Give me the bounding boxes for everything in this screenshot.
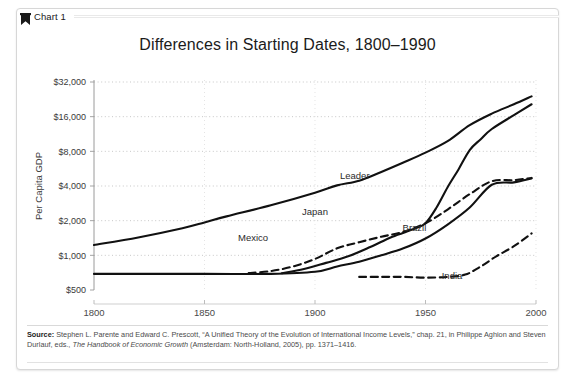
y-tick-label: $16,000: [53, 112, 86, 122]
source-divider: [27, 325, 548, 326]
source-prefix: Source:: [27, 330, 54, 339]
series-label-mexico: Mexico: [238, 232, 268, 243]
series-label-japan: Japan: [302, 206, 328, 217]
source-note: Source: Stephen L. Parente and Edward C.…: [27, 330, 548, 351]
y-tick-label: $1,000: [58, 251, 86, 261]
chart-title: Differences in Starting Dates, 1800–1990: [0, 36, 575, 54]
series-label-leader: Leader: [340, 170, 370, 181]
y-tick-label: $2,000: [58, 216, 86, 226]
source-text-b: (Amsterdam: North-Holland, 2005), pp. 13…: [188, 340, 356, 349]
card-bottom-rule: [27, 362, 548, 363]
series-label-brazil: Brazil: [403, 222, 427, 233]
plot-area: $500$1,000$2,000$4,000$8,000$16,000$32,0…: [28, 68, 548, 318]
y-axis-title: Per Capita GDP: [33, 152, 44, 220]
series-label-india: India: [442, 270, 463, 281]
y-tick-label: $4,000: [58, 181, 86, 191]
x-tick-label: 1950: [415, 307, 436, 318]
x-tick-label: 1800: [83, 307, 104, 318]
tab-divider-rule: [74, 15, 559, 18]
x-tick-label: 1900: [304, 307, 325, 318]
series-line-mexico: [249, 178, 532, 273]
y-tick-label: $8,000: [58, 147, 86, 157]
line-chart-svg: $500$1,000$2,000$4,000$8,000$16,000$32,0…: [28, 68, 548, 318]
source-italic-title: The Handbook of Economic Growth: [72, 340, 188, 349]
chart-number-tab: Chart 1: [16, 8, 72, 25]
x-tick-label: 2000: [525, 307, 546, 318]
chart-page: Chart 1 Differences in Starting Dates, 1…: [0, 0, 575, 385]
bookmark-icon: [20, 11, 31, 23]
y-tick-label: $500: [66, 285, 86, 295]
chart-number-label: Chart 1: [34, 11, 66, 22]
series-line-leader: [94, 96, 532, 245]
x-tick-label: 1850: [194, 307, 215, 318]
y-tick-label: $32,000: [53, 77, 86, 87]
